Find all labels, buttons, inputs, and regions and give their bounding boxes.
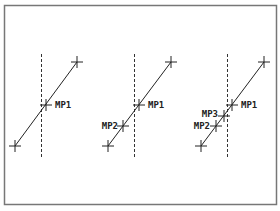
panel-3: MP1MP3MP2 — [194, 54, 270, 157]
midpoint-label-mp2: MP2 — [102, 121, 118, 131]
midpoint-label-mp2: MP2 — [194, 121, 210, 131]
midpoint-label-mp1: MP1 — [148, 100, 164, 110]
endpoint-cross-icon — [102, 140, 114, 152]
endpoint-cross-icon — [165, 56, 177, 68]
endpoint-cross-icon — [195, 140, 207, 152]
endpoint-cross-icon — [71, 56, 83, 68]
midpoint-label-mp3: MP3 — [202, 109, 218, 119]
midpoint-label-mp1: MP1 — [241, 100, 257, 110]
midpoint-label-mp1: MP1 — [55, 100, 71, 110]
endpoint-cross-icon — [258, 56, 270, 68]
midpoint-cross-icon — [210, 120, 222, 132]
midpoint-cross-icon — [117, 120, 129, 132]
panel-1: MP1 — [9, 54, 83, 157]
midpoint-diagram: MP1MP1MP2MP1MP3MP2 — [0, 0, 280, 211]
endpoint-cross-icon — [9, 140, 21, 152]
panel-2: MP1MP2 — [102, 54, 177, 157]
